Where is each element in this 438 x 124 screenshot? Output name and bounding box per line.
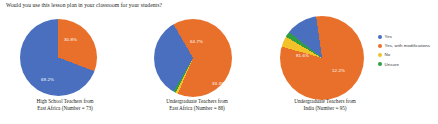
pie-chart-undergraduate-india: 81.6%12.2% Undergraduate Teachers from I… bbox=[262, 16, 388, 124]
slice-percentage-label: 81.6% bbox=[296, 53, 309, 58]
chart-legend: YesYes, with modificationsNoUnsure bbox=[378, 32, 438, 69]
legend-swatch-icon bbox=[378, 35, 382, 39]
legend-label: Yes bbox=[385, 34, 392, 39]
legend-label: Yes, with modifications bbox=[385, 43, 430, 48]
legend-swatch-icon bbox=[378, 44, 382, 48]
pie-chart-high-school-east-africa: 30.8%69.2% High School Teachers from Eas… bbox=[2, 16, 128, 124]
legend-label: Unsure bbox=[385, 62, 399, 67]
slice-percentage-label: 64.7% bbox=[190, 39, 203, 44]
caption-line-1: Undergraduate Teachers from bbox=[134, 98, 260, 105]
legend-label: No bbox=[385, 52, 391, 57]
legend-item[interactable]: Unsure bbox=[378, 60, 438, 69]
legend-item[interactable]: Yes, with modifications bbox=[378, 41, 438, 50]
pie-wrapper: 64.7%33.3% bbox=[134, 16, 260, 96]
pie-graphic bbox=[20, 19, 97, 96]
slice-percentage-label: 30.8% bbox=[64, 37, 77, 42]
chart-caption: Undergraduate Teachers from India (Numbe… bbox=[262, 98, 388, 112]
pie-wrapper: 81.6%12.2% bbox=[262, 16, 388, 96]
pie-wrapper: 30.8%69.2% bbox=[2, 16, 128, 96]
legend-swatch-icon bbox=[378, 62, 382, 66]
page-title: Would you use this lesson plan in your c… bbox=[6, 2, 162, 9]
legend-item[interactable]: No bbox=[378, 50, 438, 59]
caption-line-2: East Africa (Number = 73) bbox=[2, 105, 128, 112]
legend-swatch-icon bbox=[378, 53, 382, 57]
legend-item[interactable]: Yes bbox=[378, 32, 438, 41]
pie-chart-undergraduate-east-africa: 64.7%33.3% Undergraduate Teachers from E… bbox=[134, 16, 260, 124]
caption-line-1: Undergraduate Teachers from bbox=[262, 98, 388, 105]
slice-percentage-label: 69.2% bbox=[41, 77, 54, 82]
chart-caption: High School Teachers from East Africa (N… bbox=[2, 98, 128, 112]
caption-line-2: India (Number = 95) bbox=[262, 105, 388, 112]
pie-graphic bbox=[280, 16, 364, 100]
slice-percentage-label: 12.2% bbox=[332, 68, 345, 73]
chart-caption: Undergraduate Teachers from East Africa … bbox=[134, 98, 260, 112]
caption-line-2: East Africa (Number = 88) bbox=[134, 105, 260, 112]
slice-percentage-label: 33.3% bbox=[212, 81, 225, 86]
caption-line-1: High School Teachers from bbox=[2, 98, 128, 105]
